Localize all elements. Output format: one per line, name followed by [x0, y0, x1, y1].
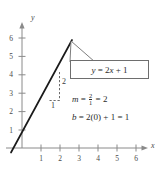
rise-label: 2: [62, 78, 66, 86]
equation-callout-box: y = 2x + 1: [70, 60, 149, 79]
slope-eq1: =: [79, 94, 89, 104]
y-tick-4: 4: [6, 71, 16, 79]
x-tick-4: 4: [93, 155, 103, 163]
y-tick-3: 3: [6, 90, 16, 98]
slope-denominator: 1: [89, 99, 92, 107]
y-axis-label: y: [31, 14, 35, 22]
y-tick-2: 2: [6, 108, 16, 116]
intercept-expr: = 2(0) + 1 = 1: [77, 112, 130, 122]
slope-annotation: m = 21 = 2: [72, 93, 107, 108]
slope-triangle: [50, 72, 60, 101]
y-tick-5: 5: [6, 53, 16, 61]
run-label: 1: [51, 102, 55, 110]
x-axis: [6, 145, 148, 152]
callout-pointer: [70, 41, 95, 62]
line-graph-figure: y x 1 2 3 4 5 6 1 2 3 4 5 6 2 1 y = 2x +…: [0, 0, 159, 169]
slope-numerator: 2: [89, 93, 92, 100]
y-tick-1: 1: [6, 127, 16, 135]
slope-fraction: 21: [89, 93, 92, 108]
x-tick-1: 1: [36, 155, 46, 163]
x-tick-3: 3: [74, 155, 84, 163]
x-tick-2: 2: [55, 155, 65, 163]
y-tick-6: 6: [6, 35, 16, 43]
slope-eq2: = 2: [93, 94, 107, 104]
callout-eq: = 2: [95, 65, 109, 75]
x-axis-label: x: [151, 142, 155, 150]
graph-canvas: [0, 0, 159, 169]
intercept-annotation: b = 2(0) + 1 = 1: [72, 113, 129, 122]
x-tick-6: 6: [131, 155, 141, 163]
x-tick-5: 5: [112, 155, 122, 163]
callout-plus: + 1: [114, 65, 128, 75]
equation-callout-label: y = 2x + 1: [71, 65, 148, 75]
